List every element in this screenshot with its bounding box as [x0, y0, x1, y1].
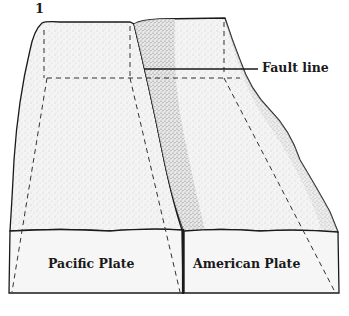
fault-line-label: Fault line [262, 60, 329, 75]
figure-number: 1 [35, 1, 44, 16]
pacific-plate-label: Pacific Plate [48, 256, 135, 271]
american-plate-label: American Plate [193, 256, 300, 271]
